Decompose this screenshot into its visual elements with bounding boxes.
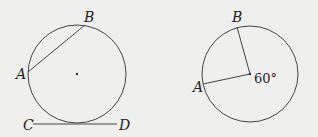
radius-ob xyxy=(237,27,250,74)
right-center-point xyxy=(249,73,251,75)
left-figure: B A C D xyxy=(14,9,130,133)
label-c: C xyxy=(23,117,34,133)
label-a-right: A xyxy=(191,79,203,95)
label-d: D xyxy=(118,117,130,133)
label-a-left: A xyxy=(14,66,26,82)
radius-oa xyxy=(203,74,250,84)
right-figure: B A 60° xyxy=(191,9,298,122)
left-center-point xyxy=(76,73,78,75)
angle-label: 60° xyxy=(254,71,277,86)
label-b-right: B xyxy=(231,9,242,25)
geometry-diagram: B A C D B A 60° xyxy=(0,0,318,137)
label-b-left: B xyxy=(83,9,94,25)
chord-ab xyxy=(28,25,85,72)
